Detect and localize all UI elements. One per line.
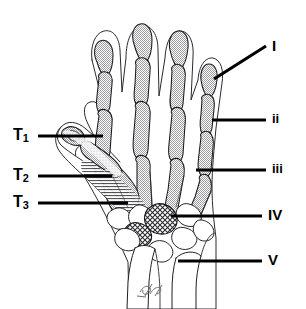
- label-T2: T2: [13, 167, 29, 183]
- label-I: I: [272, 38, 276, 53]
- label-ii: ii: [272, 112, 279, 125]
- label-V: V: [268, 252, 278, 267]
- hand-skeleton-diagram: [0, 0, 306, 309]
- leader-line-I: [214, 46, 266, 79]
- label-iii: iii: [272, 162, 283, 175]
- label-T1: T1: [13, 127, 29, 143]
- label-IV: IV: [268, 207, 282, 222]
- label-T3: T3: [13, 194, 29, 210]
